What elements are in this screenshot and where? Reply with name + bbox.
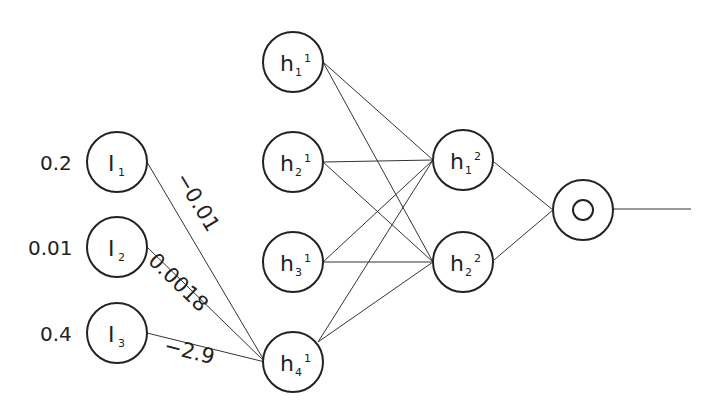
svg-text:1: 1 <box>304 52 311 65</box>
input-value-2: 0.01 <box>28 236 73 260</box>
svg-text:1: 1 <box>304 352 311 365</box>
weight-i1-h4: −0.01 <box>171 168 225 236</box>
svg-text:3: 3 <box>295 266 302 279</box>
neural-network-diagram: I 1 0.2 I 2 0.01 I 3 0.4 h 1 1 h 2 1 h 3… <box>0 0 717 420</box>
hidden2-node-1: h 1 2 <box>433 130 493 190</box>
input-node-2: I 2 0.01 <box>28 217 147 277</box>
hidden1-node-3: h 3 1 <box>263 232 323 292</box>
svg-text:1: 1 <box>304 152 311 165</box>
svg-text:h: h <box>450 149 464 174</box>
edge-h22-o <box>494 210 553 260</box>
svg-text:h: h <box>280 351 294 376</box>
hidden1-node-1: h 1 1 <box>263 32 323 92</box>
output-node <box>553 180 613 240</box>
svg-text:1: 1 <box>118 166 125 179</box>
edge-h41-h22 <box>318 262 433 342</box>
hidden2-node-2: h 2 2 <box>433 232 493 292</box>
hidden1-node-2: h 2 1 <box>263 132 323 192</box>
input-value-1: 0.2 <box>40 151 72 175</box>
input-value-3: 0.4 <box>40 322 72 346</box>
hidden1-node-4: h 4 1 <box>263 332 323 392</box>
svg-text:2: 2 <box>295 166 302 179</box>
svg-text:1: 1 <box>465 164 472 177</box>
svg-text:2: 2 <box>465 266 472 279</box>
svg-text:h: h <box>280 251 294 276</box>
edge-h12-o <box>494 162 553 210</box>
svg-text:2: 2 <box>118 251 125 264</box>
input-node-1: I 1 0.2 <box>40 132 147 192</box>
svg-text:1: 1 <box>295 66 302 79</box>
svg-text:2: 2 <box>474 150 481 163</box>
svg-text:h: h <box>280 151 294 176</box>
svg-text:h: h <box>450 251 464 276</box>
svg-text:1: 1 <box>304 252 311 265</box>
weight-i2-h4: 0.0018 <box>144 248 214 316</box>
edge-h11-h12 <box>323 62 433 160</box>
svg-text:I: I <box>108 151 115 176</box>
svg-text:3: 3 <box>118 337 125 350</box>
weight-i3-h4: −2.9 <box>162 334 217 370</box>
svg-text:I: I <box>108 322 115 347</box>
svg-text:2: 2 <box>474 252 481 265</box>
input-node-3: I 3 0.4 <box>40 303 147 363</box>
svg-text:4: 4 <box>295 366 302 379</box>
svg-text:I: I <box>108 236 115 261</box>
svg-text:h: h <box>280 51 294 76</box>
